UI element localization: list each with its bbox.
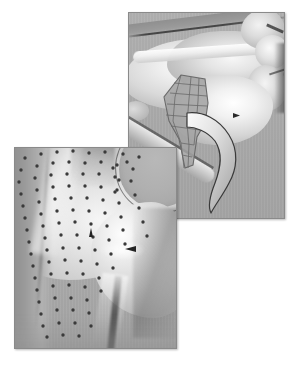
landmark-dot[interactable] [33, 176, 36, 179]
landmark-dot[interactable] [55, 150, 58, 153]
landmark-dot[interactable] [79, 259, 82, 262]
landmark-dot[interactable] [23, 216, 26, 219]
landmark-dot[interactable] [19, 168, 22, 171]
landmark-dot[interactable] [121, 228, 124, 231]
landmark-dot[interactable] [55, 209, 58, 212]
landmark-dot[interactable] [19, 192, 22, 195]
landmark-dot[interactable] [89, 222, 92, 225]
landmark-dot[interactable] [119, 215, 122, 218]
landmark-dot[interactable] [137, 155, 140, 158]
landmark-dot[interactable] [35, 164, 38, 167]
landmark-dot[interactable] [63, 258, 66, 261]
landmark-dot[interactable] [27, 240, 30, 243]
landmark-dot[interactable] [57, 221, 60, 224]
landmark-dot[interactable] [61, 333, 64, 336]
landmark-dot[interactable] [41, 224, 44, 227]
landmark-dot[interactable] [115, 163, 118, 166]
landmark-dot[interactable] [131, 167, 134, 170]
landmark-dot[interactable] [83, 285, 86, 288]
landmark-dot[interactable] [31, 264, 34, 267]
landmark-dot[interactable] [93, 248, 96, 251]
landmark-dot[interactable] [99, 185, 102, 188]
landmark-dot[interactable] [77, 246, 80, 249]
landmark-dot[interactable] [89, 324, 92, 327]
landmark-dot[interactable] [125, 160, 128, 163]
landmark-dot[interactable] [103, 211, 106, 214]
landmark-dot[interactable] [121, 152, 124, 155]
landmark-dot[interactable] [49, 173, 52, 176]
landmark-dot[interactable] [21, 204, 24, 207]
landmark-dot[interactable] [81, 272, 84, 275]
landmark-dot[interactable] [55, 308, 58, 311]
landmark-dot[interactable] [51, 284, 54, 287]
landmark-dot[interactable] [57, 321, 60, 324]
landmark-dot[interactable] [53, 296, 56, 299]
landmark-dot[interactable] [117, 201, 120, 204]
landmark-dot[interactable] [99, 289, 102, 292]
landmark-dot[interactable] [71, 208, 74, 211]
landmark-dot[interactable] [85, 298, 88, 301]
landmark-dot[interactable] [145, 234, 148, 237]
landmark-dot[interactable] [105, 224, 108, 227]
landmark-dot[interactable] [49, 272, 52, 275]
landmark-dot[interactable] [109, 252, 112, 255]
landmark-dot[interactable] [83, 161, 86, 164]
landmark-dot[interactable] [37, 200, 40, 203]
landmark-dot[interactable] [129, 179, 132, 182]
landmark-dot[interactable] [69, 296, 72, 299]
landmark-dot[interactable] [83, 184, 86, 187]
landmark-dot[interactable] [101, 198, 104, 201]
landmark-dot[interactable] [59, 233, 62, 236]
landmark-dot[interactable] [85, 196, 88, 199]
landmark-dot[interactable] [17, 180, 20, 183]
landmark-dot[interactable] [35, 188, 38, 191]
landmark-dot[interactable] [39, 152, 42, 155]
landmark-dot[interactable] [65, 172, 68, 175]
landmark-dot[interactable] [117, 178, 120, 181]
landmark-dot[interactable] [111, 266, 114, 269]
landmark-dot[interactable] [39, 312, 42, 315]
landmark-dot[interactable] [67, 184, 70, 187]
landmark-dot[interactable] [43, 236, 46, 239]
landmark-dot[interactable] [123, 242, 126, 245]
landmark-dot[interactable] [87, 209, 90, 212]
landmark-dot[interactable] [69, 196, 72, 199]
landmark-dot[interactable] [51, 185, 54, 188]
landmark-dot[interactable] [71, 149, 74, 152]
landmark-dot[interactable] [29, 252, 32, 255]
landmark-dot[interactable] [77, 334, 80, 337]
landmark-dot[interactable] [47, 260, 50, 263]
landmark-dot[interactable] [137, 206, 140, 209]
landmark-dot[interactable] [113, 190, 116, 193]
landmark-dot[interactable] [99, 160, 102, 163]
landmark-dot[interactable] [25, 228, 28, 231]
landmark-dot[interactable] [133, 193, 136, 196]
landmark-dot[interactable] [103, 150, 106, 153]
landmark-dot[interactable] [41, 324, 44, 327]
landmark-dot[interactable] [141, 220, 144, 223]
landmark-dot[interactable] [61, 246, 64, 249]
landmark-dot[interactable] [73, 321, 76, 324]
landmark-dot[interactable] [95, 262, 98, 265]
landmark-dot[interactable] [113, 175, 116, 178]
landmark-dot[interactable] [67, 283, 70, 286]
landmark-dot[interactable] [75, 233, 78, 236]
landmark-dot[interactable] [37, 300, 40, 303]
landmark-dot[interactable] [111, 166, 114, 169]
landmark-dot[interactable] [35, 288, 38, 291]
landmark-dot[interactable] [97, 276, 100, 279]
landmark-dot[interactable] [71, 308, 74, 311]
landmark-dot[interactable] [51, 161, 54, 164]
landmark-dot[interactable] [87, 311, 90, 314]
landmark-dot[interactable] [45, 335, 48, 338]
landmark-dot[interactable] [107, 238, 110, 241]
panel-landmark-points-render[interactable] [14, 147, 177, 349]
landmark-dot[interactable] [39, 212, 42, 215]
landmark-dot[interactable] [97, 172, 100, 175]
landmark-dot[interactable] [45, 248, 48, 251]
landmark-dot[interactable] [33, 276, 36, 279]
landmark-dot[interactable] [81, 172, 84, 175]
landmark-dot[interactable] [53, 197, 56, 200]
landmark-dot[interactable] [67, 160, 70, 163]
landmark-dot[interactable] [73, 220, 76, 223]
